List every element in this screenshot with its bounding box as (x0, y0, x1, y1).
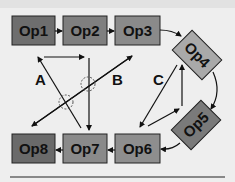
edge-label-b: B (112, 71, 123, 88)
node-op1[interactable]: Op1 (12, 16, 55, 45)
edge-op4-op5 (211, 72, 217, 109)
edge-label-a: A (35, 71, 46, 88)
process-flow-diagram: Op1 Op2 Op3 Op4 Op5 Op6 Op7 (0, 0, 235, 182)
edge-label-c: C (153, 71, 164, 88)
node-op5[interactable]: Op5 (171, 100, 220, 149)
node-op7-label: Op7 (70, 140, 99, 157)
node-op2[interactable]: Op2 (63, 16, 107, 45)
edge-op6-up (148, 109, 179, 126)
node-op3[interactable]: Op3 (115, 16, 160, 45)
node-op3-label: Op3 (123, 22, 152, 39)
node-op7[interactable]: Op7 (63, 134, 107, 163)
node-op8[interactable]: Op8 (12, 134, 55, 163)
node-op1-label: Op1 (19, 22, 48, 39)
node-op6-label: Op6 (123, 140, 152, 157)
node-op6[interactable]: Op6 (115, 134, 160, 163)
node-op4[interactable]: Op4 (172, 30, 221, 79)
node-op2-label: Op2 (70, 22, 99, 39)
diagram-canvas: Op1 Op2 Op3 Op4 Op5 Op6 Op7 (0, 0, 235, 182)
edge-b-diagonal-reverse (32, 56, 132, 126)
edge-op5-op6 (161, 143, 180, 149)
node-op8-label: Op8 (19, 140, 48, 157)
feedback-edges (32, 56, 182, 130)
edge-op3-op4 (160, 30, 181, 36)
